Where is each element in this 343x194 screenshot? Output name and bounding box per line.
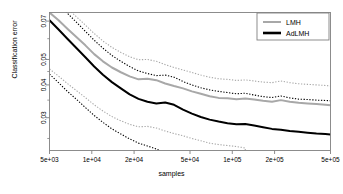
x-tick-label: 2e+05	[265, 156, 284, 163]
y-axis-title: Classification error	[11, 14, 18, 86]
legend-box: LMHAdLMH	[257, 13, 329, 40]
y-tick-label: 0.04	[40, 78, 47, 91]
x-tick-label: 2e+04	[125, 156, 144, 163]
y-tick-label: 0.05	[40, 53, 47, 66]
legend-label-adlmh: AdLMH	[286, 30, 309, 37]
chart-figure: 5e+031e+042e+045e+041e+052e+055e+050.030…	[0, 0, 343, 194]
y-tick-label: 0.03	[40, 111, 47, 124]
y-tick-label: 0.07	[40, 14, 47, 27]
x-tick-label: 1e+05	[223, 156, 242, 163]
x-tick-label: 5e+05	[321, 156, 340, 163]
chart-plot-area: 5e+031e+042e+045e+041e+052e+055e+050.030…	[0, 0, 343, 194]
legend-label-lmh: LMH	[286, 19, 301, 26]
x-tick-label: 1e+04	[83, 156, 102, 163]
x-axis-title: samples	[0, 170, 343, 177]
x-tick-label: 5e+03	[40, 156, 59, 163]
x-tick-label: 5e+04	[181, 156, 200, 163]
